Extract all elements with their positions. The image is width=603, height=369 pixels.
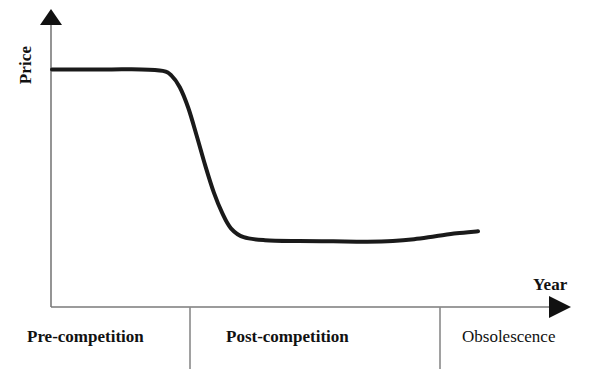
y-axis-label: Price [9, 32, 43, 98]
phase-label-obsolescence: Obsolescence [462, 327, 555, 347]
y-axis-arrowhead [40, 9, 62, 25]
price-curve [52, 69, 478, 241]
x-axis-label: Year [533, 275, 567, 295]
phase-label-pre-competition: Pre-competition [27, 327, 144, 347]
chart-canvas [0, 0, 603, 369]
y-axis-label-text: Price [16, 43, 36, 87]
price-lifecycle-chart: Price Year Pre-competition Post-competit… [0, 0, 603, 369]
phase-label-post-competition: Post-competition [226, 327, 349, 347]
x-axis-arrowhead [549, 296, 571, 318]
